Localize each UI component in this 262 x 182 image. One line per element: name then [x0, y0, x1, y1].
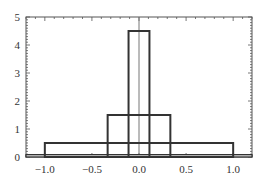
histogram-chart: 012345−1.0−0.50.00.51.0: [0, 0, 262, 182]
y-tick-label: 5: [15, 11, 21, 23]
x-tick-label: 0.0: [132, 163, 146, 175]
x-tick-label: 1.0: [226, 163, 240, 175]
y-tick-label: 2: [15, 95, 21, 107]
histogram-bars: [26, 17, 252, 157]
y-tick-label: 1: [15, 123, 21, 135]
y-tick-label: 4: [15, 39, 21, 51]
tick-labels: 012345−1.0−0.50.00.51.0: [15, 11, 241, 175]
x-tick-label: −1.0: [35, 163, 55, 175]
x-tick-label: 0.5: [179, 163, 193, 175]
x-tick-label: −0.5: [82, 163, 102, 175]
y-tick-label: 3: [15, 67, 21, 79]
y-tick-label: 0: [15, 151, 21, 163]
